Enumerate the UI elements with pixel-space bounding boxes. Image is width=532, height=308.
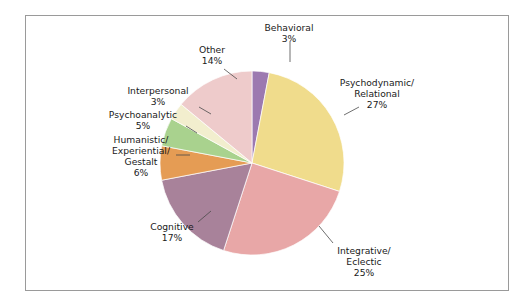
slice-label-psychodynamic-relational: Psychodynamic/Relational27%: [340, 77, 415, 110]
slice-label-interpersonal: Interpersonal3%: [127, 85, 188, 107]
leader-line-psychodynamic-relational: [344, 107, 359, 115]
pie-chart-svg: Behavioral3%Psychodynamic/Relational27%I…: [0, 0, 532, 308]
pie-chart-figure: Behavioral3%Psychodynamic/Relational27%I…: [0, 0, 532, 308]
slice-label-behavioral: Behavioral3%: [265, 22, 314, 44]
slice-label-other: Other14%: [199, 44, 225, 66]
slice-label-integrative-eclectic: Integrative/Eclectic25%: [337, 245, 391, 278]
slice-label-cognitive: Cognitive17%: [150, 221, 194, 243]
leader-line-integrative-eclectic: [319, 226, 333, 243]
